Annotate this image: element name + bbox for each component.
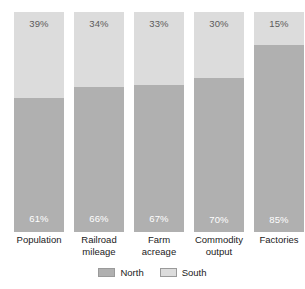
segment-value-label-north: 67% xyxy=(149,214,168,224)
segment-value-label-south: 39% xyxy=(29,19,48,29)
segment-value-label-south: 33% xyxy=(149,19,168,29)
bar-segment-south[interactable]: 33% xyxy=(134,12,184,85)
legend-swatch-icon xyxy=(98,268,115,277)
segment-value-label-south: 34% xyxy=(89,19,108,29)
segment-value-label-north: 70% xyxy=(209,215,228,225)
category-label-factories: Factories xyxy=(254,234,304,257)
plot-area: 39% 61% 34% 66% 33% 67% xyxy=(14,12,304,232)
category-label-population: Population xyxy=(14,234,64,257)
bar-group-railroad-mileage[interactable]: 34% 66% xyxy=(74,12,124,232)
bar-segment-south[interactable]: 30% xyxy=(194,12,244,78)
bar-segment-north[interactable]: 70% xyxy=(194,78,244,232)
chart-legend: North South xyxy=(0,268,305,278)
bar-segment-north[interactable]: 67% xyxy=(134,85,184,232)
bar-segment-south[interactable]: 15% xyxy=(254,12,304,45)
bar-segment-north[interactable]: 85% xyxy=(254,45,304,232)
bar-segment-north[interactable]: 66% xyxy=(74,87,124,232)
bar-group-factories[interactable]: 15% 85% xyxy=(254,12,304,232)
legend-swatch-icon xyxy=(160,268,177,277)
legend-label: North xyxy=(120,268,143,278)
segment-value-label-north: 61% xyxy=(29,214,48,224)
category-label-commodity-output: Commodity output xyxy=(194,234,244,257)
category-label-farm-acreage: Farm acreage xyxy=(134,234,184,257)
segment-value-label-south: 30% xyxy=(209,19,228,29)
bar-group-population[interactable]: 39% 61% xyxy=(14,12,64,232)
bar-segment-south[interactable]: 34% xyxy=(74,12,124,87)
segment-value-label-south: 15% xyxy=(269,19,288,29)
legend-item-south[interactable]: South xyxy=(160,268,207,278)
segment-value-label-north: 66% xyxy=(89,214,108,224)
bar-group-commodity-output[interactable]: 30% 70% xyxy=(194,12,244,232)
bar-segment-north[interactable]: 61% xyxy=(14,98,64,232)
bar-group-farm-acreage[interactable]: 33% 67% xyxy=(134,12,184,232)
category-label-railroad-mileage: Railroad mileage xyxy=(74,234,124,257)
category-axis: Population Railroad mileage Farm acreage… xyxy=(14,234,304,257)
legend-item-north[interactable]: North xyxy=(98,268,143,278)
stacked-bar-chart: 39% 61% 34% 66% 33% 67% xyxy=(0,0,305,289)
bar-segment-south[interactable]: 39% xyxy=(14,12,64,98)
segment-value-label-north: 85% xyxy=(269,215,288,225)
legend-label: South xyxy=(182,268,207,278)
